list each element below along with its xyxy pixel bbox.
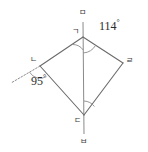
segment-d-r bbox=[84, 63, 123, 115]
angle-value-114: 114 bbox=[99, 19, 117, 33]
geometry-figure: ㅁ ㄱ ㄴ ㄹ ㄷ ㅂ 114° 95° bbox=[0, 0, 148, 152]
vertex-label-n: ㄴ bbox=[30, 56, 37, 64]
vertex-label-m: ㅁ bbox=[79, 9, 86, 17]
arc-at-g-left bbox=[73, 44, 84, 50]
segment-n-d bbox=[40, 66, 84, 115]
segment-r-g bbox=[83, 37, 123, 63]
degree-symbol-114: ° bbox=[117, 18, 120, 27]
degree-symbol-95: ° bbox=[43, 73, 46, 82]
angle-value-95: 95 bbox=[31, 74, 43, 88]
arc-at-g-right bbox=[83, 45, 95, 53]
vertex-label-d: ㄷ bbox=[74, 117, 81, 125]
geometry-canvas bbox=[0, 0, 148, 152]
axis-line-m-b bbox=[83, 22, 84, 134]
angle-label-114: 114° bbox=[99, 19, 120, 32]
vertex-label-b: ㅂ bbox=[80, 138, 87, 146]
angle-label-95: 95° bbox=[31, 74, 46, 87]
vertex-label-g: ㄱ bbox=[72, 28, 79, 36]
vertex-label-r: ㄹ bbox=[126, 57, 133, 65]
segment-g-n bbox=[40, 37, 83, 66]
